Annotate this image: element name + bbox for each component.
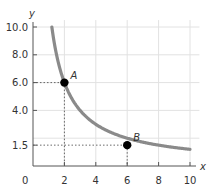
dotted-guides: [33, 83, 127, 166]
x-tick-label: 2: [61, 175, 67, 186]
y-tick-label: 6.0: [12, 77, 28, 88]
point-label: A: [69, 70, 77, 81]
y-axis-label: y: [28, 8, 36, 19]
point-a: [60, 78, 68, 86]
y-tick-label: 1.5: [12, 140, 28, 151]
x-tick-label: 8: [155, 175, 161, 186]
x-axis-label: x: [199, 161, 206, 172]
point-label: B: [133, 132, 140, 143]
x-tick-label: 6: [124, 175, 130, 186]
curve-line: [52, 27, 190, 149]
y-tick-label: 8.0: [12, 49, 28, 60]
gridlines: [33, 20, 199, 166]
y-tick-label: 4.0: [12, 105, 28, 116]
axis-ticks: 2468101.54.06.08.010.0: [6, 22, 197, 187]
chart: 2468101.54.06.08.010.0 AB y x 0: [0, 0, 217, 189]
point-b: [123, 141, 131, 149]
y-tick-label: 10.0: [6, 22, 28, 33]
origin-label: 0: [22, 175, 28, 186]
x-tick-label: 10: [184, 175, 197, 186]
x-tick-label: 4: [93, 175, 99, 186]
